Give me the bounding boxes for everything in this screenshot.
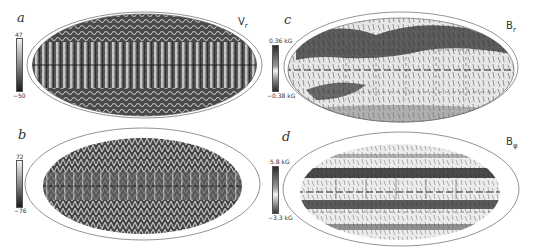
panel-c: c Br 0.36 kG −0.38 kG xyxy=(266,0,533,124)
mollweide-map xyxy=(266,0,533,124)
panel-a: a Vr 47 −50 xyxy=(0,0,266,124)
mollweide-map xyxy=(266,124,533,252)
panel-b: b 72 −76 xyxy=(0,124,266,252)
panel-d: d Bφ 5.8 kG −3.3 kG xyxy=(266,124,533,252)
mollweide-map xyxy=(0,124,266,252)
mollweide-map xyxy=(0,0,266,124)
